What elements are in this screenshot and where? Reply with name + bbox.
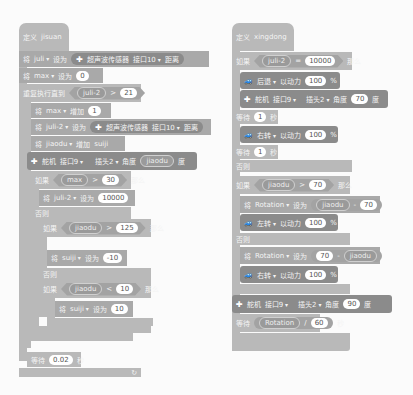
value-input[interactable]: 10: [116, 284, 133, 294]
variable-dropdown[interactable]: juli: [34, 55, 49, 63]
variable-reporter[interactable]: jiaodu: [69, 283, 102, 295]
set-juli-block[interactable]: 将 juli 设为 ✚ 超声波传感器 接口10 距离: [19, 51, 209, 67]
variable-reporter[interactable]: jiaodu: [344, 250, 377, 262]
slot-dropdown[interactable]: 插头2: [306, 94, 329, 104]
value-input[interactable]: 100: [305, 218, 326, 228]
variable-dropdown[interactable]: suiji: [70, 305, 89, 313]
repeat-until-block[interactable]: 重复执行直到 juli-2 > 21: [19, 84, 141, 102]
extension-puzzle-icon: ✚: [95, 123, 102, 132]
slot-dropdown[interactable]: 插头2: [298, 299, 321, 309]
variable-dropdown[interactable]: Rotation: [255, 252, 289, 260]
set-rotation-block[interactable]: 将 Rotation 设为 jiaodu - 70: [240, 196, 380, 213]
variable-dropdown[interactable]: juli-2: [54, 194, 76, 202]
turn-right-block-2[interactable]: 🚙 右转 以动力 100 %: [240, 266, 338, 283]
turn-left-block[interactable]: 🚙 左转 以动力 100 %: [240, 214, 338, 231]
if-block-max[interactable]: 如果 max > 30 那么: [31, 171, 131, 189]
variable-reporter[interactable]: Rotation: [259, 317, 300, 329]
value-input[interactable]: 0: [76, 71, 88, 81]
if-block-jiaodu-10[interactable]: 如果 jiaodu < 10 那么: [39, 280, 151, 298]
wait-block-2[interactable]: 等待 1 秒: [232, 145, 278, 159]
variable-reporter[interactable]: juli-2: [262, 55, 291, 67]
value-input[interactable]: 70: [316, 251, 333, 261]
servo-block-70[interactable]: ✚ 舵机 接口9 插头2 角度 70 度: [240, 90, 388, 108]
variable-reporter[interactable]: suiji: [94, 140, 108, 148]
wait-block[interactable]: 等待 0.02 秒: [27, 352, 81, 367]
variable-dropdown[interactable]: max: [46, 107, 66, 115]
value-input[interactable]: 21: [120, 88, 137, 98]
port-dropdown[interactable]: 接口9: [273, 94, 296, 104]
equals-operator[interactable]: juli-2 = 10000: [254, 55, 343, 68]
if-block-jiaodu-125[interactable]: 如果 jiaodu > 125 那么: [39, 219, 151, 237]
port-dropdown[interactable]: 接口10: [152, 122, 180, 132]
change-jiaodu-block[interactable]: 将 jiaodu 增加 suiji: [31, 136, 125, 151]
greater-than-operator[interactable]: juli-2 > 21: [69, 87, 145, 100]
define-block-xingdong[interactable]: 定义 xingdong: [232, 23, 294, 51]
to-label: 设为: [80, 193, 94, 203]
direction-dropdown[interactable]: 右转: [257, 270, 276, 280]
servo-block[interactable]: ✚ 舵机 接口9 插头2 角度 jiaodu 度: [27, 152, 197, 170]
variable-reporter[interactable]: jiaodu: [140, 155, 173, 167]
variable-reporter[interactable]: max: [61, 174, 88, 186]
if-block-juli2[interactable]: 如果 juli-2 = 10000 那么: [232, 52, 352, 70]
variable-dropdown[interactable]: max: [34, 72, 54, 80]
define-block-jisuan[interactable]: 定义 jisuan: [19, 23, 69, 51]
set-juli2-10000-block[interactable]: 将 juli-2 设为 10000: [39, 190, 135, 206]
variable-dropdown[interactable]: juli-2: [46, 123, 68, 131]
sensor-label: 超声波传感器: [106, 122, 148, 132]
value-input[interactable]: 1: [254, 147, 266, 157]
set-juli2-block[interactable]: 将 juli-2 设为 ✚ 超声波传感器 接口10 距离: [31, 119, 211, 135]
greater-than-operator[interactable]: jiaodu > 70: [254, 179, 334, 192]
value-input[interactable]: 70: [309, 180, 326, 190]
variable-reporter[interactable]: jiaodu: [262, 179, 295, 191]
direction-dropdown[interactable]: 后退: [257, 76, 276, 86]
value-input[interactable]: 70: [360, 200, 377, 210]
value-input[interactable]: 30: [102, 175, 119, 185]
variable-dropdown[interactable]: suiji: [62, 254, 81, 262]
variable-dropdown[interactable]: Rotation: [255, 201, 289, 209]
change-max-block[interactable]: 将 max 增加 1: [31, 103, 111, 118]
if-block-jiaodu-70[interactable]: 如果 jiaodu > 70 那么: [232, 176, 350, 194]
variable-reporter[interactable]: jiaodu: [316, 199, 349, 211]
value-input[interactable]: -10: [103, 253, 122, 263]
value-input[interactable]: 10000: [305, 56, 335, 66]
port-dropdown[interactable]: 接口10: [133, 54, 161, 64]
subtract-operator[interactable]: jiaodu - 70: [311, 199, 382, 211]
less-than-operator[interactable]: jiaodu < 10: [61, 283, 141, 296]
variable-dropdown[interactable]: jiaodu: [46, 140, 72, 148]
direction-dropdown[interactable]: 右转: [257, 130, 276, 140]
value-input[interactable]: 1: [254, 112, 266, 122]
car-icon: 🚙: [244, 131, 253, 139]
value-input[interactable]: 10: [111, 304, 128, 314]
value-input[interactable]: 70: [351, 94, 368, 104]
slot-dropdown[interactable]: 插头2: [95, 156, 118, 166]
direction-dropdown[interactable]: 左转: [257, 218, 276, 228]
port-dropdown[interactable]: 接口9: [60, 156, 83, 166]
value-input[interactable]: 90: [343, 299, 360, 309]
servo-block-90[interactable]: ✚ 舵机 接口9 插头2 角度 90 度: [232, 295, 392, 313]
set-rotation-block-2[interactable]: 将 Rotation 设为 70 - jiaodu: [240, 247, 380, 264]
wait-block-1[interactable]: 等待 1 秒: [232, 110, 278, 124]
value-input[interactable]: 100: [305, 76, 326, 86]
move-backward-block[interactable]: 🚙 后退 以动力 100 %: [240, 72, 340, 89]
value-input[interactable]: 60: [311, 318, 328, 328]
set-suiji-10-block[interactable]: 将 suiji 设为 10: [55, 301, 133, 317]
variable-reporter[interactable]: juli-2: [77, 87, 106, 99]
port-dropdown[interactable]: 接口9: [265, 299, 288, 309]
ultrasonic-reporter[interactable]: ✚ 超声波传感器 接口10 距离: [71, 53, 184, 65]
subtract-operator[interactable]: 70 - jiaodu: [311, 250, 382, 262]
set-max-block[interactable]: 将 max 设为 0: [19, 68, 103, 83]
divide-operator[interactable]: Rotation / 60: [254, 317, 333, 329]
wait-rotation-block[interactable]: 等待 Rotation / 60 秒: [232, 314, 320, 332]
value-input[interactable]: 10000: [98, 193, 128, 203]
value-input[interactable]: 100: [305, 130, 326, 140]
value-input[interactable]: 1: [88, 106, 100, 116]
value-input[interactable]: 0.02: [49, 355, 73, 365]
greater-than-operator[interactable]: max > 30: [53, 174, 127, 187]
ultrasonic-reporter[interactable]: ✚ 超声波传感器 接口10 距离: [90, 121, 203, 133]
value-input[interactable]: 100: [305, 270, 326, 280]
variable-reporter[interactable]: jiaodu: [69, 222, 102, 234]
set-suiji-neg10-block[interactable]: 将 suiji 设为 -10: [47, 250, 127, 266]
value-input[interactable]: 125: [116, 223, 137, 233]
turn-right-block[interactable]: 🚙 右转 以动力 100 %: [240, 126, 338, 143]
greater-than-operator[interactable]: jiaodu > 125: [61, 222, 146, 235]
